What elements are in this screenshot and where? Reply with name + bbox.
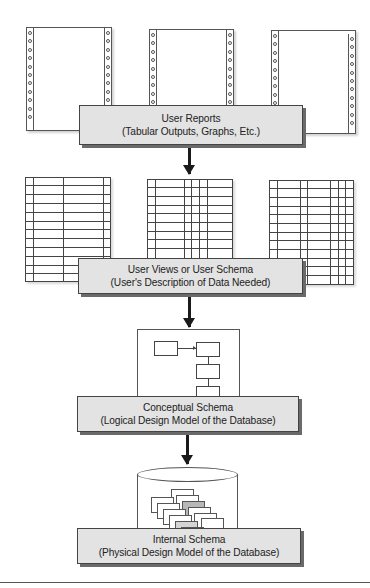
tractor-feed-strip-right [348, 34, 355, 133]
down-arrow-icon [186, 432, 189, 464]
tractor-feed-strip-left [150, 30, 157, 108]
bottom-rule [0, 582, 370, 583]
entity-box [196, 364, 220, 379]
level-subtitle: (Logical Design Model of the Database) [78, 414, 298, 427]
user-view-table-2 [147, 179, 233, 259]
database-cylinder-icon [137, 467, 238, 532]
entity-box [154, 341, 178, 356]
entity-box [196, 342, 220, 357]
level-subtitle: (Physical Design Model of the Database) [78, 546, 300, 559]
cylinder-top [137, 467, 238, 482]
level-title: User Reports [80, 112, 302, 125]
report-page-2 [149, 29, 234, 109]
level-title: User Views or User Schema [79, 263, 302, 276]
level-title: Internal Schema [78, 533, 300, 546]
internal-schema-label-box: Internal Schema (Physical Design Model o… [77, 528, 301, 564]
down-arrow-icon [188, 294, 191, 327]
level-title: Conceptual Schema [78, 401, 298, 414]
user-reports-label-box: User Reports (Tabular Outputs, Graphs, E… [79, 105, 303, 145]
user-views-label-box: User Views or User Schema (User's Descri… [78, 258, 303, 294]
conceptual-model-frame [137, 329, 240, 399]
tractor-feed-strip-left [27, 28, 34, 130]
level-subtitle: (Tabular Outputs, Graphs, Etc.) [80, 125, 302, 138]
conceptual-schema-label-box: Conceptual Schema (Logical Design Model … [77, 396, 299, 432]
tractor-feed-strip-right [226, 30, 233, 108]
down-arrow-icon [188, 145, 191, 174]
level-subtitle: (User's Description of Data Needed) [79, 276, 302, 289]
